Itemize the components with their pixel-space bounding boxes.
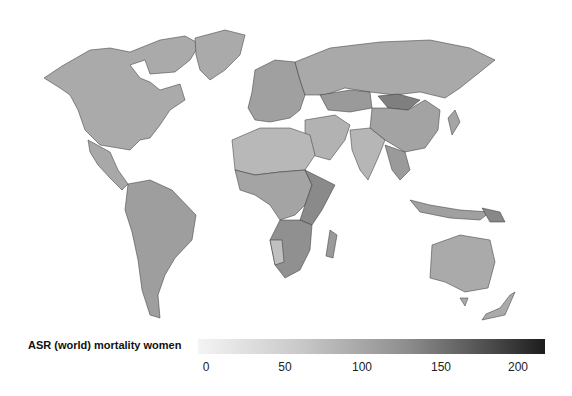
legend-tick: 150: [431, 360, 451, 374]
region-madagascar: [326, 230, 337, 258]
region-north-africa: [232, 128, 315, 175]
region-indonesia: [410, 200, 490, 220]
region-europe: [248, 60, 305, 122]
legend-color-bar: [198, 339, 545, 354]
legend-tick: 100: [352, 360, 372, 374]
legend-title: ASR (world) mortality women: [28, 339, 181, 351]
world-map: [0, 0, 572, 330]
region-india: [350, 128, 385, 180]
region-namibia: [270, 240, 284, 265]
region-greenland: [195, 30, 245, 80]
region-north-america: [44, 36, 200, 150]
legend-tick: 50: [278, 360, 291, 374]
region-japan: [448, 110, 460, 135]
region-new-zealand: [482, 292, 515, 320]
region-south-america: [125, 180, 196, 318]
legend-tick: 0: [203, 360, 210, 374]
legend-tick: 200: [508, 360, 528, 374]
region-australia: [430, 235, 495, 292]
region-central-africa: [235, 170, 312, 220]
region-tasmania: [460, 298, 468, 306]
region-russia: [295, 40, 495, 98]
